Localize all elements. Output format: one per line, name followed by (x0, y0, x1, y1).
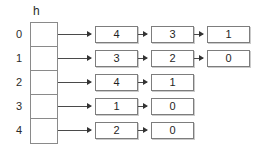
bucket-cell (31, 47, 57, 71)
array-caption-label: h (33, 4, 40, 18)
bucket-index-label: 3 (12, 100, 26, 112)
chain-node: 2 (151, 50, 194, 67)
chain-node: 3 (95, 50, 138, 67)
chain-node: 0 (151, 122, 194, 139)
bucket-cell (31, 95, 57, 119)
chain-node: 1 (95, 98, 138, 115)
node-link-arrow (138, 58, 147, 59)
bucket-to-node-arrow (58, 106, 91, 107)
node-link-arrow (138, 82, 147, 83)
bucket-to-node-arrow (58, 82, 91, 83)
node-link-arrow (138, 130, 147, 131)
node-link-arrow (194, 34, 203, 35)
node-link-arrow (138, 34, 147, 35)
bucket-to-node-arrow (58, 34, 91, 35)
chain-node: 3 (151, 26, 194, 43)
node-link-arrow (138, 106, 147, 107)
chain-node: 2 (95, 122, 138, 139)
chain-node: 1 (151, 74, 194, 91)
chain-node: 4 (95, 74, 138, 91)
bucket-array (30, 22, 58, 144)
chain-node: 1 (207, 26, 250, 43)
bucket-index-label: 2 (12, 76, 26, 88)
bucket-cell (31, 23, 57, 47)
chain-node: 0 (151, 98, 194, 115)
bucket-index-label: 4 (12, 124, 26, 136)
node-link-arrow (194, 58, 203, 59)
chain-node: 0 (207, 50, 250, 67)
hash-table-chaining-diagram: h 01234 431320411020 (0, 0, 255, 149)
chain-node: 4 (95, 26, 138, 43)
bucket-cell (31, 71, 57, 95)
bucket-to-node-arrow (58, 58, 91, 59)
bucket-index-label: 0 (12, 28, 26, 40)
bucket-cell (31, 119, 57, 143)
bucket-to-node-arrow (58, 130, 91, 131)
bucket-index-label: 1 (12, 52, 26, 64)
